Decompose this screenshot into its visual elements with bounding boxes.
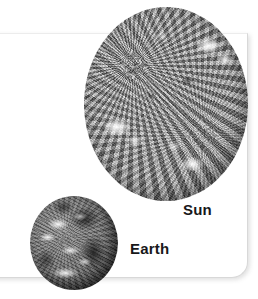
earth-label: Earth bbox=[130, 241, 169, 256]
sun-earth-comparison-figure: Sun Earth bbox=[0, 0, 258, 299]
sun-sphere bbox=[84, 7, 248, 201]
earth-sphere bbox=[30, 196, 118, 290]
sun-label: Sun bbox=[183, 202, 212, 217]
